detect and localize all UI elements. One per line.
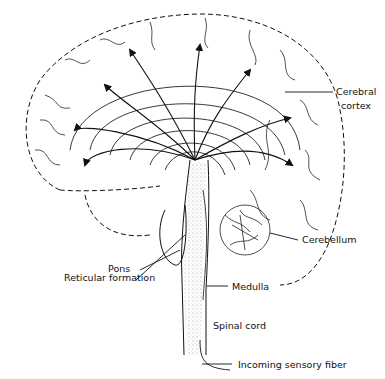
brain-diagram (0, 0, 385, 379)
label-spinal-cord: Spinal cord (213, 320, 266, 331)
label-cerebral-cortex-line1: Cerebral (336, 86, 376, 97)
label-cerebral-cortex-line2: cortex (341, 100, 371, 111)
label-incoming-sensory-fiber: Incoming sensory fiber (238, 359, 347, 370)
label-cerebellum: Cerebellum (302, 234, 356, 245)
label-reticular-formation: Reticular formation (64, 272, 155, 283)
label-medulla: Medulla (232, 281, 269, 292)
